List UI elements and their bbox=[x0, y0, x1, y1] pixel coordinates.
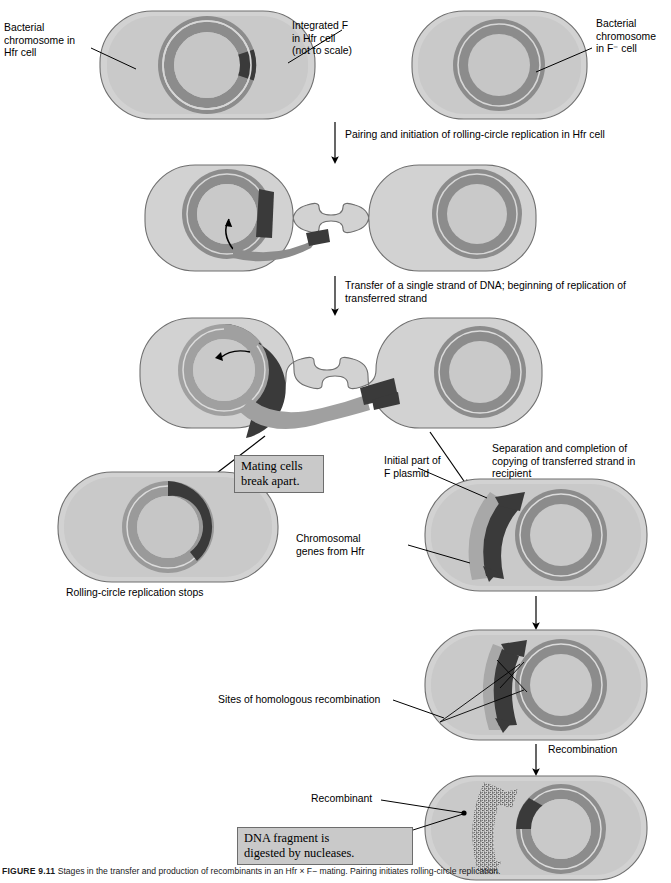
cell-recombinant bbox=[425, 776, 647, 880]
cell-hfr-stage1 bbox=[100, 11, 315, 119]
callout-dna-fragment-digested: DNA fragment is digested by nucleases. bbox=[237, 827, 413, 865]
conjugating-pair-stage3 bbox=[140, 318, 542, 438]
label-bacterial-chromosome-hfr: Bacterial chromosome in Hfr cell bbox=[4, 22, 92, 60]
figure-canvas: Bacterial chromosome in Hfr cell Integra… bbox=[0, 0, 671, 883]
label-step-recombination: Recombination bbox=[548, 744, 658, 757]
label-step-pairing: Pairing and initiation of rolling-circle… bbox=[345, 129, 665, 142]
label-step-transfer: Transfer of a single strand of DNA; begi… bbox=[345, 280, 665, 305]
label-integrated-f: Integrated F in Hfr cell (not to scale) bbox=[292, 20, 392, 58]
cell-homologous-recombination bbox=[425, 630, 647, 740]
figure-number: FIGURE 9.11 bbox=[2, 866, 55, 876]
callout-mating-cells-break-apart: Mating cells break apart. bbox=[234, 455, 324, 493]
label-bacterial-chromosome-f-minus: Bacterial chromosome in F⁻ cell bbox=[596, 18, 671, 56]
figure-caption-text: Stages in the transfer and production of… bbox=[58, 866, 501, 876]
label-rolling-circle-stops: Rolling-circle replication stops bbox=[66, 587, 286, 600]
cell-f-minus-stage1 bbox=[412, 11, 587, 119]
label-sites-of-homologous-recombination: Sites of homologous recombination bbox=[218, 694, 398, 707]
label-step-separation: Separation and completion of copying of … bbox=[492, 443, 668, 481]
label-recombinant: Recombinant bbox=[311, 793, 403, 806]
label-chromosomal-genes-from-hfr: Chromosomal genes from Hfr bbox=[296, 533, 410, 558]
cell-recipient-stage4 bbox=[425, 479, 647, 591]
figure-caption: FIGURE 9.11 Stages in the transfer and p… bbox=[2, 866, 671, 877]
conjugating-pair-stage2 bbox=[145, 165, 536, 271]
label-initial-part-f-plasmid: Initial part of F plasmid bbox=[384, 455, 488, 480]
